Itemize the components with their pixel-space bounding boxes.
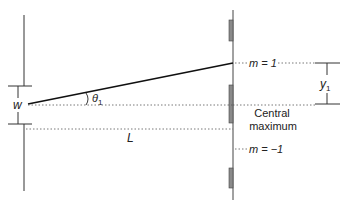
- central-maximum-label-1: Central: [254, 107, 289, 119]
- bright-fringe-bottom: [229, 168, 233, 188]
- diffraction-diagram: w θ1 L m = 1 m = −1 Central maximum y1: [0, 0, 351, 205]
- ray-to-m1: [28, 63, 233, 104]
- order-plus-label: m = 1: [249, 57, 277, 69]
- distance-label: L: [127, 131, 134, 145]
- bright-fringe-top: [229, 20, 233, 41]
- central-maximum-band: [229, 85, 233, 123]
- central-maximum-label-2: maximum: [249, 120, 297, 132]
- slit-width-label: w: [13, 98, 23, 112]
- order-minus-label: m = −1: [249, 143, 283, 155]
- y1-label: y1: [319, 77, 331, 93]
- angle-arc: [86, 93, 88, 105]
- angle-label: θ1: [92, 92, 103, 107]
